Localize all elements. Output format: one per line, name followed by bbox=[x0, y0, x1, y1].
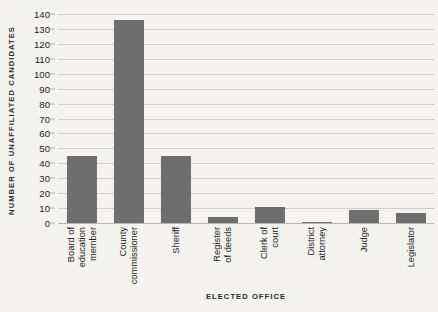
x-axis-tick-label-line: court bbox=[270, 227, 281, 248]
x-axis-tick-label-line: Legislator bbox=[405, 227, 416, 267]
bar-slot bbox=[387, 14, 434, 223]
y-axis-tick-mark bbox=[50, 43, 55, 44]
x-axis-tick-label-inner: Judge bbox=[358, 227, 369, 289]
x-axis-tick-label: Registerof deeds bbox=[199, 227, 246, 289]
y-axis-tick-mark bbox=[50, 178, 55, 179]
y-axis-tick-label: 70 bbox=[0, 113, 50, 124]
y-axis-tick-label: 30 bbox=[0, 173, 50, 184]
bar bbox=[348, 210, 378, 223]
x-axis-tick-label-line: Board of bbox=[65, 227, 76, 262]
y-axis-tick-label: 120 bbox=[0, 38, 50, 49]
bar-chart: NUMBER OF UNAFFILIATED CANDIDATES 010203… bbox=[0, 0, 438, 312]
bar bbox=[254, 207, 284, 223]
x-axis-tick-label-inner: Countycommissioner bbox=[118, 227, 140, 289]
x-axis-title: ELECTED OFFICE bbox=[58, 292, 434, 301]
x-axis-tick-label-inner: Registerof deeds bbox=[212, 227, 234, 289]
gridline bbox=[58, 223, 434, 224]
x-axis-tick-label: Countycommissioner bbox=[105, 227, 152, 289]
y-axis-tick-mark bbox=[50, 73, 55, 74]
bar bbox=[207, 217, 237, 223]
y-axis-tick-label: 50 bbox=[0, 143, 50, 154]
bar-slot bbox=[340, 14, 387, 223]
y-axis-tick-label: 20 bbox=[0, 188, 50, 199]
y-axis-tick-label: 140 bbox=[0, 9, 50, 20]
x-axis-tick-label-line: attorney bbox=[317, 227, 328, 261]
y-axis-tick-label: 0 bbox=[0, 218, 50, 229]
x-axis-tick-label: Legislator bbox=[387, 227, 434, 289]
y-axis-tick-mark bbox=[50, 148, 55, 149]
x-axis-tick-label: Districtattorney bbox=[293, 227, 340, 289]
y-axis-tick-mark bbox=[50, 14, 55, 15]
y-axis-tick-mark bbox=[50, 208, 55, 209]
x-axis-tick-label-line: Clerk of bbox=[259, 227, 270, 259]
x-axis-tick-label: Judge bbox=[340, 227, 387, 289]
y-axis-tick-mark bbox=[50, 223, 55, 224]
x-axis-tick-label-line: of deeds bbox=[223, 227, 234, 263]
x-axis-tick-label-inner: Sheriff bbox=[170, 227, 181, 289]
y-axis-tick-label: 60 bbox=[0, 128, 50, 139]
x-axis-tick-label-inner: Board ofeducationmember bbox=[65, 227, 98, 289]
x-axis-tick-label-line: District bbox=[306, 227, 317, 255]
bar-series bbox=[58, 14, 434, 223]
x-axis-tick-label-line: County bbox=[118, 227, 129, 256]
bar-slot bbox=[293, 14, 340, 223]
bar bbox=[160, 156, 190, 223]
bar bbox=[66, 156, 96, 223]
y-axis-tick-label: 130 bbox=[0, 23, 50, 34]
y-axis-tick-label: 100 bbox=[0, 68, 50, 79]
plot-area: 0102030405060708090100110120130140 bbox=[58, 14, 434, 223]
bar-slot bbox=[152, 14, 199, 223]
x-axis-tick-label-line: commissioner bbox=[129, 227, 140, 284]
y-axis-tick-mark bbox=[50, 88, 55, 89]
x-axis-tick-label-line: Judge bbox=[358, 227, 369, 252]
y-axis-tick-mark bbox=[50, 163, 55, 164]
x-axis-tick-label: Clerk ofcourt bbox=[246, 227, 293, 289]
bar bbox=[301, 222, 331, 224]
x-axis-tick-label-line: Register bbox=[212, 227, 223, 262]
bar-slot bbox=[105, 14, 152, 223]
y-axis-tick-mark bbox=[50, 28, 55, 29]
y-axis-tick-mark bbox=[50, 193, 55, 194]
bar-slot bbox=[199, 14, 246, 223]
y-axis-tick-mark bbox=[50, 58, 55, 59]
y-axis-tick-label: 40 bbox=[0, 158, 50, 169]
y-axis-tick-mark bbox=[50, 103, 55, 104]
bar-slot bbox=[246, 14, 293, 223]
x-axis-tick-label-line: member bbox=[87, 227, 98, 261]
y-axis-tick-mark bbox=[50, 118, 55, 119]
x-axis-tick-label-inner: Clerk ofcourt bbox=[259, 227, 281, 289]
x-axis-tick-labels: Board ofeducationmemberCountycommissione… bbox=[58, 227, 434, 289]
y-axis-tick-label: 110 bbox=[0, 53, 50, 64]
x-axis-tick-label-line: education bbox=[76, 227, 87, 267]
bar-slot bbox=[58, 14, 105, 223]
y-axis-tick-label: 10 bbox=[0, 203, 50, 214]
x-axis-tick-label-inner: Legislator bbox=[405, 227, 416, 289]
x-axis-tick-label: Board ofeducationmember bbox=[58, 227, 105, 289]
x-axis-tick-label-inner: Districtattorney bbox=[306, 227, 328, 289]
x-axis-tick-label-line: Sheriff bbox=[170, 227, 181, 254]
y-axis-tick-mark bbox=[50, 133, 55, 134]
bar bbox=[395, 213, 425, 223]
bar bbox=[113, 20, 143, 223]
y-axis-tick-label: 90 bbox=[0, 83, 50, 94]
x-axis-tick-label: Sheriff bbox=[152, 227, 199, 289]
y-axis-tick-label: 80 bbox=[0, 98, 50, 109]
